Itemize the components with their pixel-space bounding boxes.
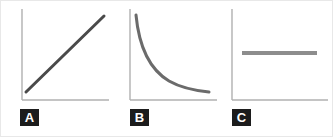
figure-container: A B C: [0, 0, 333, 137]
chart-svg-c: [220, 1, 333, 111]
panel-label-a: A: [20, 109, 39, 126]
plot-area-b: [111, 1, 223, 111]
chart-svg-b: [111, 1, 223, 111]
plot-area-c: [220, 1, 333, 111]
panel-label-b: B: [130, 109, 149, 126]
chart-panel-a: A: [1, 1, 113, 137]
chart-svg-a: [1, 1, 113, 111]
data-curve-b: [136, 15, 209, 92]
data-line-a: [26, 16, 104, 92]
plot-area-a: [1, 1, 113, 111]
panel-label-c: C: [232, 109, 251, 126]
chart-panel-c: C: [220, 1, 333, 137]
chart-panel-b: B: [111, 1, 223, 137]
